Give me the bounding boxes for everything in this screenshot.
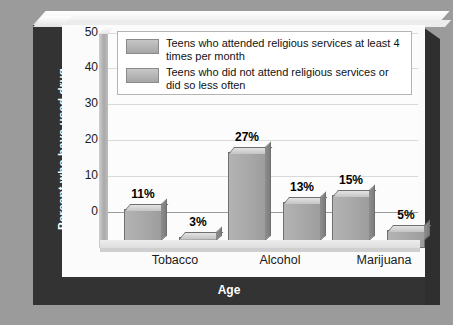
y-axis-title-band: Percent who have used drug bbox=[33, 25, 62, 305]
bar-alcohol-attended[interactable]: 27% bbox=[228, 152, 266, 248]
chart-figure: Percent who have used drug 50 40 30 20 1… bbox=[0, 0, 453, 325]
bar-value-label: 3% bbox=[189, 215, 206, 229]
chart-card: Percent who have used drug 50 40 30 20 1… bbox=[33, 25, 425, 305]
category-label-alcohol: Alcohol bbox=[260, 253, 301, 267]
legend-label-not-attended: Teens who did not attend religious servi… bbox=[166, 66, 405, 91]
gridline-20 bbox=[108, 140, 418, 141]
chart-legend: Teens who attended religious services at… bbox=[117, 31, 412, 95]
x-axis-title-band: Age bbox=[33, 277, 425, 305]
bar-value-label: 13% bbox=[290, 180, 314, 194]
bar-side-face bbox=[369, 185, 375, 241]
category-label-tobacco: Tobacco bbox=[152, 253, 199, 267]
bar-side-face bbox=[320, 192, 326, 241]
legend-swatch-not-attended bbox=[126, 68, 159, 83]
y-tick-50: 50 bbox=[64, 25, 98, 39]
category-label-marijuana: Marijuana bbox=[357, 253, 412, 267]
bar-value-label: 27% bbox=[235, 130, 259, 144]
bar-side-face bbox=[216, 227, 222, 241]
gridline-30 bbox=[108, 104, 418, 105]
y-axis-wall bbox=[99, 33, 108, 248]
y-tick-10: 10 bbox=[64, 168, 98, 182]
plot-panel: 50 40 30 20 10 0 1 bbox=[62, 25, 425, 277]
legend-item-not-attended[interactable]: Teens who did not attend religious servi… bbox=[124, 66, 405, 91]
bar-side-face bbox=[265, 142, 271, 241]
y-axis-ticks: 50 40 30 20 10 0 bbox=[62, 33, 98, 248]
bar-value-label: 5% bbox=[397, 208, 414, 222]
y-tick-30: 30 bbox=[64, 96, 98, 110]
y-tick-20: 20 bbox=[64, 132, 98, 146]
legend-label-attended: Teens who attended religious services at… bbox=[166, 37, 405, 62]
y-tick-40: 40 bbox=[64, 60, 98, 74]
plot-floor-front bbox=[100, 248, 420, 252]
bar-value-label: 15% bbox=[339, 173, 363, 187]
legend-item-attended[interactable]: Teens who attended religious services at… bbox=[124, 37, 405, 62]
y-tick-0: 0 bbox=[64, 204, 98, 218]
bar-value-label: 11% bbox=[131, 187, 154, 201]
legend-swatch-attended bbox=[126, 39, 159, 54]
x-axis-title: Age bbox=[33, 283, 425, 297]
bar-side-face bbox=[161, 199, 167, 241]
